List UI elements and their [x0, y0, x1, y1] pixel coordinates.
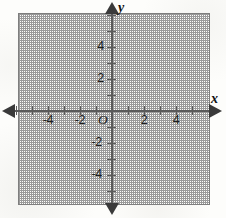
- y-axis-label: y: [118, 0, 124, 16]
- y-tick: [107, 15, 116, 16]
- y-tick-label-neg2: -2: [76, 135, 102, 149]
- y-axis-up-arrow-icon: [105, 2, 119, 14]
- y-tick-label-neg4: -4: [76, 167, 102, 181]
- x-tick: [128, 106, 129, 115]
- y-axis-line: [111, 6, 113, 212]
- y-tick: [107, 127, 116, 128]
- y-tick: [107, 31, 116, 32]
- x-tick-label-pos2: 2: [132, 113, 156, 127]
- y-tick: [107, 47, 116, 48]
- y-tick: [107, 143, 116, 144]
- y-tick: [107, 95, 116, 96]
- y-tick: [107, 63, 116, 64]
- y-tick: [107, 159, 116, 160]
- x-tick-label-pos4: 4: [164, 113, 188, 127]
- coordinate-grid-figure: -4 -2 2 4 4 2 -2 -4 O y x: [0, 0, 226, 218]
- x-axis-line: [6, 110, 220, 112]
- y-tick: [107, 175, 116, 176]
- y-tick: [107, 191, 116, 192]
- x-axis-left-arrow-icon: [2, 104, 15, 118]
- x-tick: [160, 106, 161, 115]
- y-tick-label-pos2: 2: [78, 71, 104, 85]
- x-tick: [64, 106, 65, 115]
- x-tick: [192, 106, 193, 115]
- y-tick: [107, 79, 116, 80]
- x-tick-label-neg2: -2: [68, 113, 92, 127]
- x-axis-label: x: [211, 91, 218, 107]
- x-tick: [32, 106, 33, 115]
- x-tick-label-neg4: -4: [36, 113, 60, 127]
- y-axis-down-arrow-icon: [105, 203, 119, 215]
- origin-label: O: [98, 112, 108, 128]
- y-tick-label-pos4: 4: [78, 39, 104, 53]
- x-tick: [16, 106, 17, 115]
